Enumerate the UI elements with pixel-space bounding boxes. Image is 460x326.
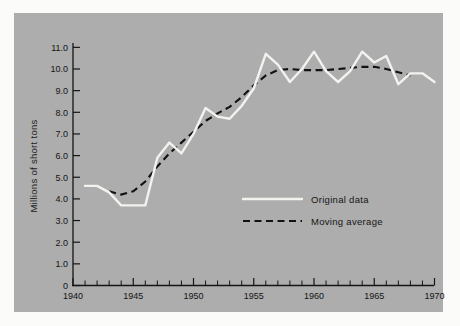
axes-group [72,43,434,286]
x-tick-label: 1940 [63,291,83,301]
y-tick-label: 9.0 [55,86,68,96]
x-axis-ticks: 1940194519501955196019651970 [63,278,445,301]
x-tick-label: 1950 [183,291,203,301]
series-moving-average [109,67,410,195]
legend-label-moving-average: Moving average [311,216,383,227]
y-axis-label: Millions of short tons [28,119,39,212]
x-tick-label: 1960 [304,291,324,301]
y-tick-label: 4.0 [55,194,68,204]
y-tick-label: 5.0 [55,173,68,183]
series-original-data [85,52,434,206]
y-tick-label: 0 [63,281,68,291]
x-tick-label: 1970 [424,291,444,301]
y-tick-label: 2.0 [55,238,68,248]
x-tick-label: 1965 [364,291,384,301]
y-tick-label: 7.0 [55,129,68,139]
chart-legend: Original data Moving average [243,194,383,227]
y-tick-label: 3.0 [55,216,68,226]
y-tick-label: 10.0 [50,64,68,74]
chart-figure: Millions of short tons 01.02.03.04.05.06… [0,0,460,326]
y-axis-label-group: Millions of short tons [28,119,39,212]
y-tick-label: 8.0 [55,108,68,118]
x-tick-label: 1945 [123,291,143,301]
legend-label-original-data: Original data [311,194,369,205]
x-tick-label: 1955 [244,291,264,301]
y-axis-ticks: 01.02.03.04.05.06.07.08.09.010.011.0 [50,43,80,291]
line-chart: Millions of short tons 01.02.03.04.05.06… [0,0,460,326]
y-tick-label: 6.0 [55,151,68,161]
y-tick-label: 11.0 [51,43,68,53]
y-tick-label: 1.0 [55,259,68,269]
